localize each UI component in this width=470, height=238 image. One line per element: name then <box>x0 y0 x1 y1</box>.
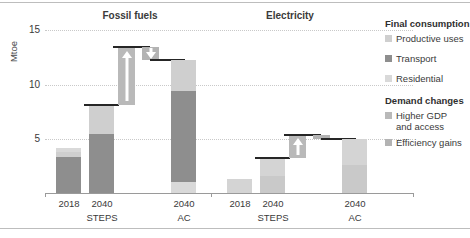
x-label-electricity-2040-steps: 2040 STEPS <box>252 198 294 223</box>
bottom-divider <box>0 228 470 229</box>
bar-segment-productive-uses <box>171 60 196 91</box>
legend-item-residential[interactable]: Residential <box>385 73 470 84</box>
axis-tick <box>45 193 46 197</box>
bar-segment-productive-uses <box>260 158 285 176</box>
legend-label: Productive uses <box>396 33 464 44</box>
x-label-year: 2040 <box>163 198 205 209</box>
legend-item-efficiency-gains[interactable]: Efficiency gains <box>385 137 470 148</box>
chart-legend: Final consumption Productive uses Transp… <box>385 18 470 153</box>
increase-arrow-icon <box>118 51 135 101</box>
bar-segment-productive-uses <box>56 152 81 157</box>
bar-segment-transport <box>171 91 196 182</box>
legend-swatch-icon <box>385 112 392 119</box>
legend-label: Residential <box>396 73 443 84</box>
bar-segment-residential <box>342 165 367 193</box>
y-tick-5: 5 <box>18 133 40 144</box>
legend-label: Higher GDP <box>396 110 447 121</box>
gridline-10 <box>45 85 413 86</box>
x-label-fossil-2040-ac: 2040 AC <box>163 198 205 223</box>
bar-segment-residential <box>260 176 285 193</box>
legend-swatch-icon <box>385 139 392 146</box>
legend-item-productive-uses[interactable]: Productive uses <box>385 33 470 44</box>
legend-group-title-final-consumption: Final consumption <box>385 18 470 29</box>
legend-swatch-icon <box>385 55 392 62</box>
axis-tick <box>211 193 212 197</box>
chart-root: Fossil fuels Electricity Mtoe 15 10 5 <box>0 0 470 238</box>
waterfall-connector <box>84 104 119 106</box>
decrease-arrow-icon <box>142 48 159 59</box>
bar-segment-productive-uses <box>227 179 252 193</box>
gridline-15 <box>45 30 413 31</box>
legend-label: Transport <box>396 53 436 64</box>
x-label-fossil-2040-steps: 2040 STEPS <box>81 198 123 223</box>
y-tick-15: 15 <box>18 24 40 35</box>
panel-title-electricity: Electricity <box>235 10 345 21</box>
legend-item-higher-gdp-and-access[interactable]: Higher GDP and access <box>385 110 470 132</box>
legend-swatch-icon <box>385 35 392 42</box>
axis-tick <box>413 193 414 197</box>
bar-segment-productive-uses <box>342 139 367 165</box>
increase-arrow-icon <box>289 138 306 155</box>
y-axis-label: Mtoe <box>8 30 19 74</box>
x-label-electricity-2040-ac: 2040 AC <box>334 198 376 223</box>
bar-segment-transport <box>89 134 114 193</box>
legend-swatch-icon <box>385 75 392 82</box>
x-label-year: 2040 <box>81 198 123 209</box>
legend-group-title-demand-changes: Demand changes <box>385 95 470 106</box>
y-tick-10: 10 <box>18 79 40 90</box>
x-axis-line <box>45 193 413 194</box>
top-divider <box>0 2 470 3</box>
panel-title-fossil-fuels: Fossil fuels <box>70 10 190 21</box>
legend-label-line2: and access <box>396 121 444 132</box>
bar-segment-transport <box>56 157 81 193</box>
x-label-scenario: AC <box>334 212 376 223</box>
bar-segment-productive-uses <box>89 105 114 134</box>
x-label-year: 2040 <box>334 198 376 209</box>
x-label-scenario: STEPS <box>81 212 123 223</box>
bar-segment-residential <box>56 148 81 152</box>
bar-segment-residential <box>171 182 196 193</box>
legend-item-transport[interactable]: Transport <box>385 53 470 64</box>
waterfall-connector <box>255 157 290 159</box>
x-label-scenario: AC <box>163 212 205 223</box>
x-label-year: 2040 <box>252 198 294 209</box>
legend-label: Efficiency gains <box>396 137 462 148</box>
x-label-scenario: STEPS <box>252 212 294 223</box>
